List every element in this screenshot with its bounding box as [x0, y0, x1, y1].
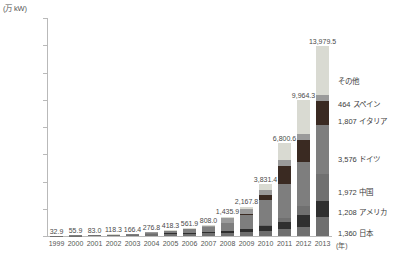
bar-value-label: 166.4	[124, 226, 142, 233]
bar-segment-日本	[183, 234, 196, 236]
y-tick-mark	[43, 154, 47, 155]
bar-2013: 13,979.5	[316, 46, 329, 236]
bar-segment-日本	[126, 235, 139, 236]
bar-2003: 166.4	[126, 234, 139, 236]
x-label-2003: 2003	[125, 240, 141, 247]
bar-2005: 418.3	[164, 230, 177, 236]
bar-segment-日本	[259, 231, 272, 236]
legend-item-イタリア: 1,807 イタリア	[338, 115, 387, 126]
bar-segment-日本	[278, 229, 291, 236]
x-label-2006: 2006	[182, 240, 198, 247]
bar-segment-日本	[240, 232, 253, 236]
bar-2000: 55.9	[69, 235, 82, 236]
bar-value-label: 55.9	[69, 227, 83, 234]
bar-2002: 118.3	[107, 234, 120, 236]
x-label-2001: 2001	[87, 240, 103, 247]
bar-value-label: 83.0	[88, 227, 102, 234]
solar-capacity-stacked-bar-chart: (万 kW) 02,0004,0006,0008,00010,00012,000…	[0, 0, 402, 260]
bar-segment-アメリカ	[297, 215, 310, 226]
bar-segment-日本	[145, 234, 158, 236]
y-tick-mark	[43, 73, 47, 74]
bar-segment-イタリア	[297, 140, 310, 162]
bar-2010: 3,831.4	[259, 184, 272, 236]
y-tick-mark	[43, 100, 47, 101]
bar-segment-日本	[316, 217, 329, 236]
bar-segment-日本	[202, 233, 215, 236]
y-tick-mark	[43, 209, 47, 210]
bar-value-label: 6,800.6	[273, 135, 296, 142]
x-axis-line	[47, 236, 332, 237]
legend-item-スペイン: 464 スペイン	[338, 98, 380, 109]
x-label-2009: 2009	[239, 240, 255, 247]
x-label-2000: 2000	[68, 240, 84, 247]
bar-2012: 9,964.3	[297, 100, 310, 236]
x-label-2010: 2010	[258, 240, 274, 247]
x-label-2002: 2002	[106, 240, 122, 247]
x-label-2012: 2012	[296, 240, 312, 247]
bar-segment-日本	[221, 233, 234, 236]
bar-value-label: 32.9	[50, 228, 64, 235]
legend-item-日本: 1,360 日本	[338, 227, 373, 238]
x-label-2007: 2007	[201, 240, 217, 247]
bar-2011: 6,800.6	[278, 143, 291, 236]
bar-2004: 276.8	[145, 232, 158, 236]
legend-item-ドイツ: 3,576 ドイツ	[338, 153, 380, 164]
bar-value-label: 118.3	[105, 226, 122, 233]
bar-segment-ドイツ	[297, 162, 310, 206]
bar-segment-アメリカ	[316, 201, 329, 217]
x-axis-title: (年)	[336, 240, 348, 250]
bar-segment-日本	[88, 235, 101, 236]
bar-segment-イタリア	[278, 166, 291, 183]
bar-value-label: 3,831.4	[254, 176, 277, 183]
bar-segment-ドイツ	[221, 223, 234, 231]
bar-segment-その他	[278, 143, 291, 160]
bar-2008: 1,435.9	[221, 216, 234, 236]
plot-area: 02,0004,0006,0008,00010,00012,00014,0001…	[47, 18, 332, 236]
bar-segment-中国	[316, 174, 329, 201]
legend-item-アメリカ: 1,208 アメリカ	[338, 206, 387, 217]
y-tick-mark	[43, 236, 47, 237]
bar-value-label: 418.3	[162, 222, 180, 229]
bar-segment-ドイツ	[259, 200, 272, 224]
x-label-2008: 2008	[220, 240, 236, 247]
y-tick-mark	[43, 45, 47, 46]
bar-value-label: 276.8	[143, 224, 161, 231]
x-label-2013: 2013	[315, 240, 331, 247]
bar-segment-日本	[107, 235, 120, 236]
y-axis-unit-label: (万 kW)	[3, 2, 27, 13]
bar-value-label: 13,979.5	[309, 38, 336, 45]
legend-item-中国: 1,972 中国	[338, 186, 373, 197]
bar-segment-ドイツ	[316, 125, 329, 174]
bar-segment-その他	[316, 46, 329, 95]
bar-value-label: 1,435.9	[216, 208, 239, 215]
x-label-1999: 1999	[49, 240, 65, 247]
bar-value-label: 9,964.3	[292, 92, 315, 99]
y-tick-mark	[43, 182, 47, 183]
bar-segment-アメリカ	[278, 222, 291, 230]
bar-2006: 561.9	[183, 228, 196, 236]
bar-2001: 83.0	[88, 235, 101, 236]
y-tick-mark	[43, 127, 47, 128]
bar-value-label: 808.0	[200, 217, 218, 224]
x-label-2011: 2011	[277, 240, 292, 247]
bar-segment-その他	[297, 100, 310, 134]
x-label-2005: 2005	[163, 240, 179, 247]
bar-segment-ドイツ	[278, 184, 291, 218]
bar-segment-ドイツ	[240, 215, 253, 228]
bar-value-label: 561.9	[181, 220, 199, 227]
bar-segment-イタリア	[316, 101, 329, 126]
x-label-2004: 2004	[144, 240, 160, 247]
bar-2007: 808.0	[202, 225, 215, 236]
legend-item-その他: その他	[338, 75, 359, 86]
y-tick-mark	[43, 18, 47, 19]
bar-segment-日本	[297, 227, 310, 236]
bar-2009: 2,167.8	[240, 206, 253, 236]
bar-segment-日本	[164, 234, 177, 236]
bar-segment-中国	[297, 206, 310, 215]
bar-value-label: 2,167.8	[235, 198, 258, 205]
